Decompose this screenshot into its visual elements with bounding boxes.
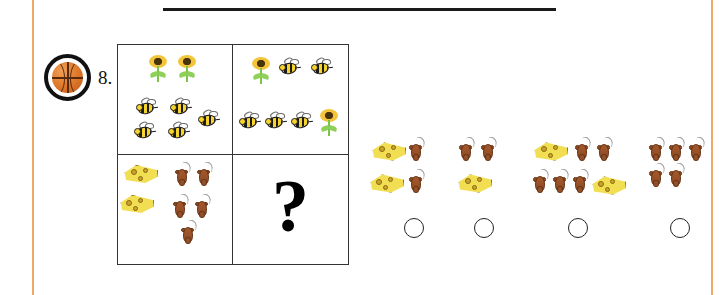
mouse-icon — [668, 164, 683, 189]
answer-option-1-radio[interactable] — [404, 218, 424, 238]
sunflower-icon — [148, 55, 168, 82]
basketball-glyph — [52, 62, 83, 93]
answer-option-4[interactable] — [646, 138, 728, 248]
question-header: 8. — [44, 54, 112, 101]
sunflower-icon — [251, 57, 271, 84]
mouse-icon — [572, 170, 587, 195]
bee-icon — [289, 113, 313, 131]
answer-option-2[interactable] — [448, 138, 534, 248]
mouse-icon — [408, 170, 423, 195]
answer-option-3-radio[interactable] — [568, 218, 588, 238]
matrix-cell-answer-slot: ? — [233, 155, 348, 265]
mouse-icon — [668, 138, 683, 163]
mouse-icon — [532, 170, 547, 195]
mouse-icon — [648, 164, 663, 189]
cheese-icon — [458, 172, 492, 194]
mouse-icon — [458, 138, 473, 163]
mouse-icon — [174, 163, 189, 188]
bee-icon — [196, 111, 220, 129]
answer-option-4-radio[interactable] — [670, 218, 690, 238]
mouse-icon — [180, 221, 195, 246]
question-number: 8. — [98, 68, 112, 87]
basketball-icon — [44, 54, 91, 101]
mouse-icon — [688, 138, 703, 163]
bee-icon — [309, 59, 333, 77]
answer-option-3-art — [532, 138, 636, 216]
mouse-icon — [408, 138, 423, 163]
matrix-cell-top-right — [233, 45, 348, 155]
bee-icon — [263, 113, 287, 131]
answer-option-1-art — [368, 138, 454, 216]
sunflower-icon — [319, 109, 339, 136]
sunflower-icon — [177, 55, 197, 82]
mouse-icon — [480, 138, 495, 163]
mouse-icon — [172, 195, 187, 220]
cheese-icon — [120, 193, 154, 215]
cheese-icon — [124, 163, 158, 185]
left-margin-rule — [32, 0, 34, 295]
matrix-cell-top-left — [118, 45, 233, 155]
bee-icon — [168, 99, 192, 117]
cheese-icon — [592, 174, 626, 196]
question-mark: ? — [233, 155, 348, 265]
mouse-icon — [194, 195, 209, 220]
bee-icon — [237, 113, 261, 131]
top-divider-rule — [163, 8, 556, 11]
answer-option-2-radio[interactable] — [474, 218, 494, 238]
analogy-matrix: ? — [117, 44, 349, 265]
mouse-icon — [196, 163, 211, 188]
worksheet-page: 8. — [0, 0, 728, 295]
answer-option-3[interactable] — [532, 138, 636, 248]
mouse-icon — [552, 170, 567, 195]
bee-icon — [277, 59, 301, 77]
answer-options — [368, 138, 708, 248]
cheese-icon — [372, 140, 406, 162]
cheese-icon — [534, 140, 568, 162]
bee-icon — [134, 99, 158, 117]
answer-option-2-art — [448, 138, 534, 216]
matrix-cell-bottom-left — [118, 155, 233, 265]
bee-icon — [166, 123, 190, 141]
answer-option-4-art — [646, 138, 728, 216]
cheese-icon — [370, 172, 404, 194]
bee-icon — [132, 123, 156, 141]
mouse-icon — [596, 138, 611, 163]
mouse-icon — [648, 138, 663, 163]
mouse-icon — [574, 138, 589, 163]
answer-option-1[interactable] — [368, 138, 454, 248]
